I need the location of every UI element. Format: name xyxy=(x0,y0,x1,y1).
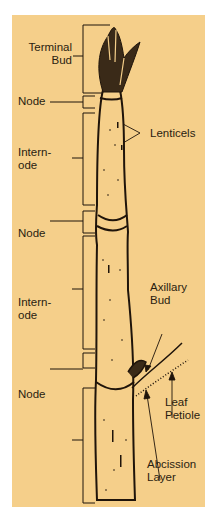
twig-illustration xyxy=(0,0,216,521)
bracket-node-3a xyxy=(83,353,95,368)
label-node-1: Node xyxy=(18,95,46,108)
label-line: Terminal xyxy=(18,41,72,54)
label-lenticels: Lenticels xyxy=(150,127,195,140)
terminal-bud-shape xyxy=(99,28,140,92)
bracket-node-2 xyxy=(83,211,95,233)
label-line: ode xyxy=(18,159,51,172)
label-line: Petiole xyxy=(165,409,200,422)
label-line: Intern- xyxy=(18,146,51,159)
label-internode-1: Intern- ode xyxy=(18,146,51,172)
label-line: Node xyxy=(18,95,46,108)
label-terminal-bud: Terminal Bud xyxy=(18,41,72,67)
label-line: Lenticels xyxy=(150,127,195,140)
bracket-node-1 xyxy=(83,96,95,108)
label-line: Abcission xyxy=(147,458,196,471)
label-line: Intern- xyxy=(18,296,51,309)
label-node-2: Node xyxy=(18,227,46,240)
label-internode-2: Intern- ode xyxy=(18,296,51,322)
bracket-internode-2 xyxy=(83,236,95,349)
label-line: Node xyxy=(18,227,46,240)
label-line: Bud xyxy=(18,54,72,67)
label-line: Bud xyxy=(150,294,187,307)
label-line: Layer xyxy=(147,471,196,484)
label-node-3: Node xyxy=(18,388,46,401)
label-line: Node xyxy=(18,388,46,401)
twig-stem xyxy=(95,90,135,500)
label-axillary-bud: Axillary Bud xyxy=(150,281,187,307)
bracket-node-3b xyxy=(83,388,95,503)
label-leaf-petiole: Leaf Petiole xyxy=(165,396,200,422)
label-line: Leaf xyxy=(165,396,200,409)
bracket-internode-1 xyxy=(83,113,95,205)
label-abcission-layer: Abcission Layer xyxy=(147,458,196,484)
label-line: Axillary xyxy=(150,281,187,294)
label-line: ode xyxy=(18,309,51,322)
